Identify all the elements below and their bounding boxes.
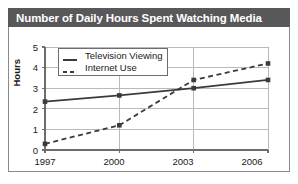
plot-area: [0, 0, 298, 184]
legend-swatch-dashed-line-icon: [63, 63, 81, 73]
legend-label-internet: Internet Use: [85, 63, 137, 73]
legend-swatch-solid-line-icon: [63, 51, 81, 61]
legend: Television Viewing Internet Use: [58, 48, 168, 76]
legend-label-television: Television Viewing: [85, 51, 162, 61]
legend-item-television: Television Viewing: [63, 50, 162, 62]
chart-figure: Number of Daily Hours Spent Watching Med…: [0, 0, 298, 184]
legend-item-internet: Internet Use: [63, 62, 137, 74]
